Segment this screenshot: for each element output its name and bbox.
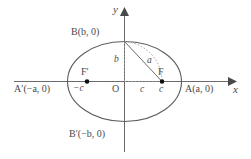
left-focus-label: F′ [81, 67, 89, 77]
x-axis-label: x [233, 84, 238, 95]
focal-distance-label: c [140, 85, 144, 95]
origin-label: O [112, 84, 119, 94]
left-vertex-label: A′(−a, 0) [14, 84, 50, 94]
semi-major-axis-label: a [147, 56, 152, 66]
y-axis-arrowhead [120, 7, 129, 16]
left-focus-value-label: −c [73, 84, 84, 94]
right-focus-label: F [158, 67, 164, 77]
y-axis-label: y [113, 4, 118, 15]
right-focus-value-label: c [159, 85, 163, 95]
top-vertex-label: B(b, 0) [71, 27, 99, 37]
semi-minor-axis-label: b [114, 55, 119, 65]
bottom-vertex-label: B′(−b, 0) [69, 129, 105, 139]
ellipse-diagram-canvas [0, 0, 251, 159]
semi-major-axis-segment [125, 42, 163, 82]
left-focus-dot [85, 79, 90, 84]
right-vertex-label: A(a, 0) [185, 84, 213, 94]
